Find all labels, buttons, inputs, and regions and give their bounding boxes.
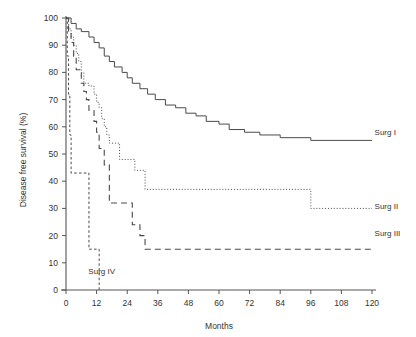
x-tick-label: 12 <box>92 298 102 308</box>
x-tick-label: 24 <box>122 298 132 308</box>
y-tick-label: 20 <box>49 231 59 241</box>
y-tick-label: 100 <box>44 13 58 23</box>
x-tick-label: 36 <box>153 298 163 308</box>
x-tick-label: 0 <box>64 298 69 308</box>
x-tick-label: 120 <box>365 298 379 308</box>
series-line-surg-iv <box>66 18 99 290</box>
x-tick-label: 96 <box>306 298 316 308</box>
series-label-surg-i: Surg I <box>375 128 396 137</box>
y-tick-label: 0 <box>53 285 58 295</box>
x-tick-label: 84 <box>275 298 285 308</box>
y-tick-label: 40 <box>49 176 59 186</box>
y-tick-label: 90 <box>49 40 59 50</box>
labels-layer: Surg ISurg IISurg IIISurg IV <box>88 128 400 276</box>
y-tick-label: 60 <box>49 122 59 132</box>
series-line-surg-iii <box>66 18 372 249</box>
ticks-layer: 0102030405060708090100012243648607284961… <box>44 13 380 308</box>
y-axis-title: Disease free survival (%) <box>18 113 28 208</box>
series-label-surg-iii: Surg III <box>375 229 401 238</box>
x-tick-label: 72 <box>245 298 255 308</box>
y-tick-label: 70 <box>49 95 59 105</box>
kaplan-meier-chart: 0102030405060708090100012243648607284961… <box>0 0 416 337</box>
series-label-surg-ii: Surg II <box>375 202 399 211</box>
y-tick-label: 50 <box>49 149 59 159</box>
x-tick-label: 48 <box>184 298 194 308</box>
x-tick-label: 60 <box>214 298 224 308</box>
series-line-surg-i <box>66 18 372 140</box>
curves-layer <box>66 18 372 290</box>
y-tick-label: 30 <box>49 203 59 213</box>
x-tick-label: 108 <box>334 298 348 308</box>
series-line-surg-ii <box>66 18 372 208</box>
y-tick-label: 10 <box>49 258 59 268</box>
x-axis-title: Months <box>205 321 233 331</box>
chart-canvas: 0102030405060708090100012243648607284961… <box>0 0 416 337</box>
y-tick-label: 80 <box>49 67 59 77</box>
series-label-surg-iv: Surg IV <box>88 267 115 276</box>
